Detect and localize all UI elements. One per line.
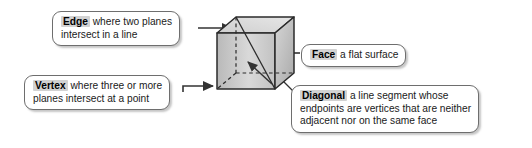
callout-diagonal-line-1: Diagonal a line segment whose [300, 90, 471, 103]
callout-face-text-1: a flat surface [340, 49, 398, 60]
callout-diagonal-term: Diagonal [300, 90, 347, 101]
cube-face-front [217, 33, 275, 89]
callout-edge-text-1: where two planes [93, 16, 172, 27]
callout-face-line-1: Face a flat surface [310, 49, 398, 62]
cube-face-top [217, 17, 294, 33]
callout-edge-term: Edge [61, 16, 90, 27]
cube-hidden-edges [217, 17, 294, 89]
callout-vertex-line-1: Vertex where three or more [33, 80, 162, 93]
leader-line-diagonal [272, 70, 294, 92]
callout-edge-line-1: Edge where two planes [61, 16, 172, 29]
callout-diagonal[interactable]: Diagonal a line segment whose endpoints … [291, 85, 479, 133]
leader-arrow-vertex [183, 86, 213, 92]
cube-space-diagonal [236, 17, 275, 89]
callout-diagonal-text-3: adjacent nor on the same face [300, 115, 471, 128]
callout-vertex-text-1: where three or more [70, 80, 162, 91]
callout-vertex[interactable]: Vertex where three or more planes inters… [24, 75, 170, 110]
cube [217, 17, 294, 89]
geometry-figure: Edge where two planes intersect in a lin… [0, 0, 532, 148]
callout-face-term: Face [310, 49, 337, 60]
callout-vertex-text-2: planes intersect at a point [33, 93, 162, 106]
callout-vertex-term: Vertex [33, 80, 68, 91]
callout-face[interactable]: Face a flat surface [301, 44, 406, 67]
callout-edge-text-2: intersect in a line [61, 29, 172, 42]
callout-diagonal-text-1: a line segment whose [350, 90, 449, 101]
callout-edge[interactable]: Edge where two planes intersect in a lin… [52, 11, 180, 46]
callout-diagonal-text-2: endpoints are vertices that are neither [300, 103, 471, 116]
cube-face-right [275, 17, 294, 89]
